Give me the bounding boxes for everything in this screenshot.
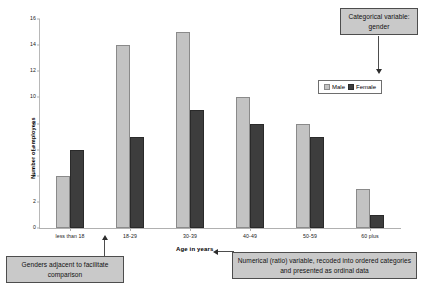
y-tick-label: 2 (33, 199, 36, 204)
bar-female-40-49 (250, 124, 264, 229)
y-tick-label: 6 (33, 147, 36, 152)
x-tick-mark (190, 228, 191, 231)
x-tick-label: less than 18 (55, 234, 84, 239)
bar-group: 40-49 (220, 19, 280, 228)
callout-categorical-variable: Categorical variable: gender (340, 8, 418, 35)
bar-female-less-than-18 (70, 150, 84, 228)
callout-adjacent-arrow-icon (102, 235, 108, 240)
callout-ordinal-arrow-icon (213, 249, 218, 255)
x-axis-title: Age in years (176, 246, 213, 252)
bar-male-18-29 (116, 45, 130, 228)
legend-label-female: Female (356, 84, 376, 90)
y-tick-label: 0 (33, 225, 36, 230)
x-tick-label: 30-39 (183, 234, 197, 239)
bar-group: 50-59 (280, 19, 340, 228)
plot-area: 0246810121416 less than 1818-2930-3940-4… (40, 19, 400, 228)
y-tick-label: 16 (30, 16, 36, 21)
x-axis-line (39, 228, 401, 229)
callout-gender-connector (378, 36, 379, 70)
x-tick-mark (250, 228, 251, 231)
callout-gender-arrow-icon (376, 69, 382, 74)
bar-female-18-29 (130, 137, 144, 228)
bar-male-30-39 (176, 32, 190, 228)
y-tick-label: 10 (30, 95, 36, 100)
x-tick-label: 40-49 (243, 234, 257, 239)
legend-item-male: Male (324, 84, 345, 90)
bar-male-less-than-18 (56, 176, 70, 228)
bar-group: 18-29 (100, 19, 160, 228)
bar-group: less than 18 (40, 19, 100, 228)
bar-male-50-59 (296, 124, 310, 229)
bar-male-60-plus (356, 189, 370, 228)
x-tick-label: 50-59 (303, 234, 317, 239)
callout-ordinal-data: Numerical (ratio) variable, recoded into… (232, 252, 417, 279)
chart-legend: Male Female (318, 80, 382, 94)
callout-ordinal-connector (218, 251, 234, 252)
legend-swatch-male-icon (324, 84, 330, 90)
x-tick-mark (310, 228, 311, 231)
x-tick-mark (130, 228, 131, 231)
legend-label-male: Male (332, 84, 345, 90)
y-tick-label: 14 (30, 43, 36, 48)
legend-item-female: Female (348, 84, 376, 90)
bar-male-40-49 (236, 97, 250, 228)
bar-female-60-plus (370, 215, 384, 228)
x-tick-label: 60 plus (361, 234, 378, 239)
bar-group: 60 plus (340, 19, 400, 228)
y-tick-label: 12 (30, 69, 36, 74)
y-tick-label: 8 (33, 121, 36, 126)
bar-female-30-39 (190, 110, 204, 228)
bar-group: 30-39 (160, 19, 220, 228)
callout-adjacent-connector (104, 240, 105, 257)
callout-genders-adjacent: Genders adjacent to facilitate compariso… (6, 256, 124, 283)
legend-swatch-female-icon (348, 84, 354, 90)
bar-chart-figure: Number of employees 0246810121416 less t… (0, 0, 422, 295)
bar-female-50-59 (310, 137, 324, 228)
x-tick-mark (70, 228, 71, 231)
x-tick-label: 18-29 (123, 234, 137, 239)
y-tick-label: 4 (33, 173, 36, 178)
x-tick-mark (370, 228, 371, 231)
